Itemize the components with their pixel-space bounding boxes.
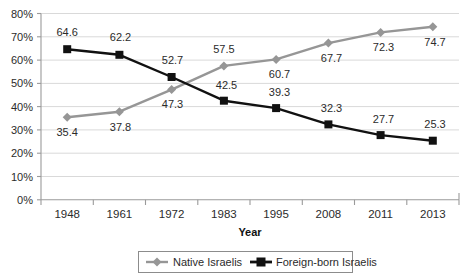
chart-background: [0, 0, 465, 279]
square-marker: [220, 97, 228, 105]
y-tick-label: 60%: [11, 54, 33, 66]
data-label: 47.3: [162, 98, 183, 110]
x-tick-label: 1972: [159, 208, 185, 220]
legend-label-native: Native Israelis: [173, 256, 243, 268]
data-label: 25.3: [424, 118, 445, 130]
data-label: 74.7: [424, 36, 445, 48]
y-tick-label: 80%: [11, 8, 33, 20]
chart-legend: Native Israelis Foreign-born Israelis: [139, 252, 378, 273]
square-marker: [63, 45, 71, 53]
square-marker: [324, 120, 332, 128]
y-tick-label: 70%: [11, 31, 33, 43]
legend-label-foreign: Foreign-born Israelis: [276, 256, 377, 268]
y-tick-label: 50%: [11, 77, 33, 89]
x-tick-label: 2008: [316, 208, 342, 220]
x-tick-label: 2013: [420, 208, 446, 220]
data-label: 62.2: [110, 31, 131, 43]
y-tick-label: 40%: [11, 101, 33, 113]
square-marker: [377, 131, 385, 139]
square-marker: [429, 137, 437, 145]
data-label: 72.3: [373, 41, 394, 53]
square-marker: [168, 73, 176, 81]
data-label: 27.7: [373, 113, 394, 125]
x-tick-label: 1995: [263, 208, 289, 220]
data-label: 52.7: [162, 54, 183, 66]
data-label: 64.6: [56, 26, 77, 38]
y-tick-label: 10%: [11, 171, 33, 183]
x-axis-title: Year: [238, 226, 262, 238]
data-label: 37.8: [110, 121, 131, 133]
y-axis-labels: 80% 70% 60% 50% 40% 30% 20% 10% 0%: [11, 8, 33, 206]
data-label: 42.5: [216, 79, 237, 91]
data-label: 57.5: [213, 43, 234, 55]
square-marker: [257, 258, 266, 267]
x-tick-label: 1948: [54, 208, 80, 220]
y-tick-label: 30%: [11, 124, 33, 136]
y-tick-label: 20%: [11, 147, 33, 159]
data-label: 39.3: [269, 86, 290, 98]
data-label: 32.3: [321, 102, 342, 114]
data-label: 35.4: [56, 126, 77, 138]
data-label: 60.7: [269, 68, 290, 80]
x-tick-label: 1983: [211, 208, 237, 220]
data-label: 67.7: [321, 52, 342, 64]
y-tick-label: 0%: [17, 194, 33, 206]
square-marker: [272, 104, 280, 112]
x-tick-label: 2011: [368, 208, 393, 220]
x-tick-label: 1961: [107, 208, 133, 220]
square-marker: [115, 51, 123, 59]
line-chart: 80% 70% 60% 50% 40% 30% 20% 10% 0% 1948 …: [0, 0, 465, 279]
